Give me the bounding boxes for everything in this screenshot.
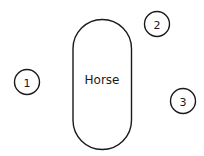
position-marker-3: 3 xyxy=(171,89,196,114)
position-1-number: 1 xyxy=(24,77,31,90)
position-marker-2: 2 xyxy=(145,12,170,37)
position-2-number: 2 xyxy=(154,19,161,32)
position-marker-1: 1 xyxy=(15,70,40,95)
position-3-number: 3 xyxy=(180,96,187,109)
horse-shape: Horse xyxy=(73,20,132,150)
horse-label: Horse xyxy=(85,73,120,87)
diagram-canvas: Horse 1 2 3 xyxy=(0,0,204,156)
